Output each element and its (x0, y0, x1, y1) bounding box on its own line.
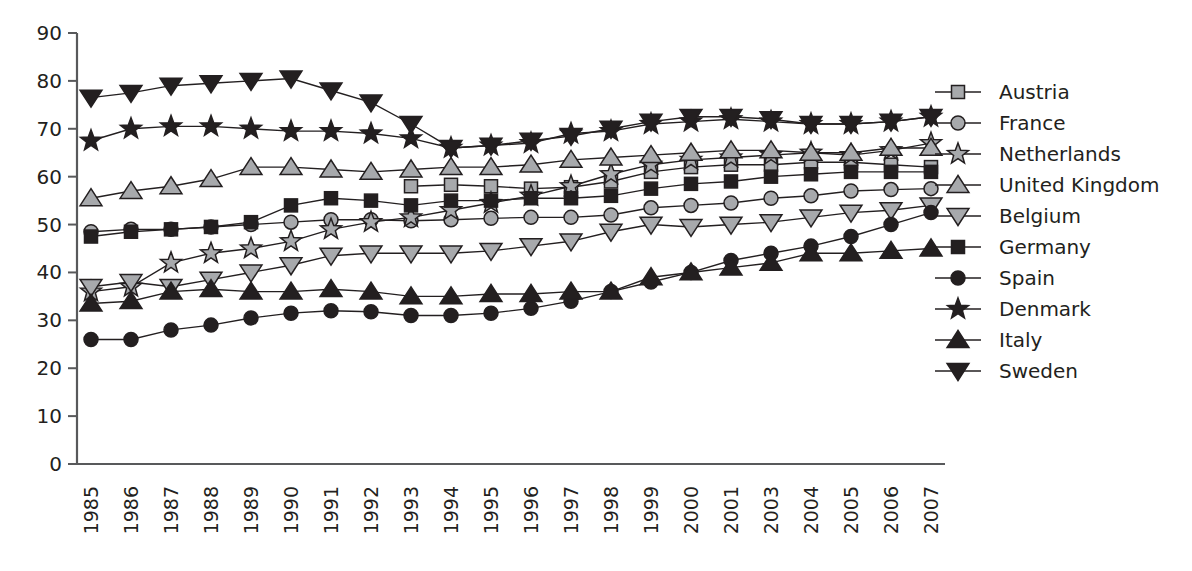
data-point-star (281, 230, 302, 250)
data-point-circle (604, 208, 618, 222)
data-point-triangle-up (480, 284, 502, 301)
data-point-star (241, 238, 262, 258)
legend-item-belgium[interactable]: Belgium (935, 204, 1081, 228)
data-point-triangle-up (440, 158, 462, 175)
data-point-triangle-down (440, 141, 462, 158)
data-point-circle (924, 182, 938, 196)
data-point-square (125, 225, 138, 238)
data-point-triangle-up (947, 331, 969, 348)
data-point-circle (284, 306, 298, 320)
data-point-triangle-down (840, 117, 862, 134)
data-point-square (445, 178, 458, 191)
y-tick-label: 80 (37, 69, 62, 93)
series-line (91, 78, 931, 147)
data-point-circle (404, 309, 418, 323)
data-point-star (201, 242, 222, 262)
legend-label: Italy (999, 328, 1043, 352)
x-tick-label: 1989 (240, 486, 262, 534)
data-point-circle (444, 309, 458, 323)
x-tick-label: 2007 (920, 486, 942, 534)
x-tick-label: 2001 (720, 486, 742, 534)
legend-item-spain[interactable]: Spain (935, 266, 1055, 290)
legend-item-netherlands[interactable]: Netherlands (935, 142, 1121, 166)
data-point-triangle-down (440, 246, 462, 263)
data-point-square (685, 177, 698, 190)
data-point-star (201, 115, 222, 135)
legend-label: Sweden (999, 359, 1078, 383)
data-point-square (205, 220, 218, 233)
legend-item-austria[interactable]: Austria (935, 80, 1070, 104)
data-point-circle (924, 206, 938, 220)
data-point-circle (844, 230, 858, 244)
data-point-circle (84, 332, 98, 346)
data-point-triangle-up (200, 280, 222, 297)
y-tick-label: 30 (37, 308, 62, 332)
x-tick-label: 1994 (440, 486, 462, 534)
data-point-triangle-up (120, 292, 142, 309)
x-tick-label: 2004 (800, 486, 822, 534)
data-point-circle (884, 183, 898, 197)
data-point-square (645, 182, 658, 195)
data-point-square (245, 216, 258, 229)
data-point-square (525, 192, 538, 205)
y-tick-label: 40 (37, 260, 62, 284)
data-point-circle (644, 201, 658, 215)
legend-label: Denmark (999, 297, 1091, 321)
data-point-circle (804, 189, 818, 203)
data-point-circle (364, 305, 378, 319)
data-point-square (565, 192, 578, 205)
data-point-circle (524, 210, 538, 224)
y-tick-label: 0 (49, 452, 62, 476)
data-point-triangle-down (80, 90, 102, 107)
y-tick-label: 10 (37, 404, 62, 428)
data-point-circle (724, 196, 738, 210)
legend-item-italy[interactable]: Italy (935, 328, 1043, 352)
legend-item-denmark[interactable]: Denmark (935, 297, 1091, 321)
data-point-square (485, 194, 498, 207)
data-point-triangle-up (240, 158, 262, 175)
legend-item-germany[interactable]: Germany (935, 235, 1091, 259)
x-tick-label: 2006 (880, 486, 902, 534)
x-tick-label: 1990 (280, 486, 302, 534)
y-tick-label: 70 (37, 117, 62, 141)
data-point-triangle-down (320, 83, 342, 100)
legend-label: France (999, 111, 1066, 135)
data-point-triangle-down (800, 117, 822, 134)
legend-item-sweden[interactable]: Sweden (935, 359, 1078, 383)
data-point-circle (484, 211, 498, 225)
x-tick-label: 2000 (680, 486, 702, 534)
data-point-circle (324, 304, 338, 318)
data-point-circle (684, 198, 698, 212)
data-point-triangle-down (400, 117, 422, 134)
legend: AustriaFranceNetherlandsUnited KingdomBe… (935, 80, 1160, 383)
data-point-triangle-down (947, 209, 969, 226)
x-tick-label: 1995 (480, 486, 502, 534)
legend-item-united-kingdom[interactable]: United Kingdom (935, 173, 1160, 197)
data-point-circle (884, 218, 898, 232)
data-point-circle (951, 271, 965, 285)
data-point-triangle-down (680, 220, 702, 237)
data-point-triangle-up (320, 280, 342, 297)
data-point-star (161, 115, 182, 135)
data-point-square (925, 165, 938, 178)
data-point-triangle-down (600, 224, 622, 241)
x-tick-label: 1991 (320, 486, 342, 534)
data-point-circle (564, 210, 578, 224)
data-point-circle (484, 306, 498, 320)
legend-label: Netherlands (999, 142, 1121, 166)
legend-item-france[interactable]: France (935, 111, 1066, 135)
data-point-circle (524, 301, 538, 315)
x-tick-label: 2005 (840, 486, 862, 534)
data-point-triangle-up (760, 253, 782, 270)
data-point-star (161, 252, 182, 272)
data-point-triangle-up (760, 141, 782, 158)
data-point-triangle-up (200, 170, 222, 187)
data-point-square (605, 189, 618, 202)
x-axis-ticks: 1985198619871988198919901991199219931994… (80, 486, 942, 534)
data-point-star (241, 118, 262, 138)
series-group (80, 71, 942, 346)
data-point-star (121, 118, 142, 138)
x-tick-label: 1992 (360, 486, 382, 534)
x-tick-label: 1997 (560, 486, 582, 534)
y-tick-label: 20 (37, 356, 62, 380)
